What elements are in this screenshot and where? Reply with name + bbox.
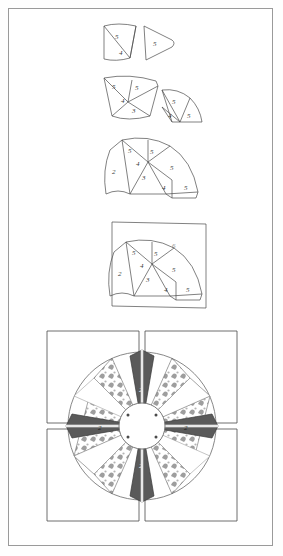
stage-5-completed-compass-block: 2 2 2 2 bbox=[44, 326, 240, 526]
piece-label-5-c: 5 bbox=[172, 98, 176, 106]
piece-label-5-right: 5 bbox=[153, 40, 157, 48]
piece-label-4-e: 4 bbox=[140, 262, 144, 270]
piece-label-4-c: 4 bbox=[136, 160, 140, 168]
piece-label-5-a: 5 bbox=[112, 83, 116, 91]
piece-label-5-f: 5 bbox=[150, 148, 154, 156]
piece-label-4-b: 4 bbox=[168, 112, 172, 120]
piece-label-5-e: 5 bbox=[128, 147, 132, 155]
stage-4-fan-on-background-square: 6 5 5 4 2 3 5 4 bbox=[96, 218, 218, 316]
piece-label-5-j: 5 bbox=[154, 250, 158, 258]
piece-label-3-a: 3 bbox=[131, 107, 136, 115]
piece-label-4-a: 4 bbox=[121, 97, 125, 105]
piece-label-5-d: 5 bbox=[187, 112, 191, 120]
center-circle bbox=[119, 403, 165, 449]
piece-label-5-g: 5 bbox=[170, 164, 174, 172]
piece-label-2-b: 2 bbox=[118, 270, 122, 278]
stage-1-two-small-wedge-units: 5 4 5 bbox=[96, 18, 188, 70]
piece-label-5: 5 bbox=[115, 33, 119, 41]
piece-label-5-k: 5 bbox=[172, 266, 176, 274]
piece-label-5-l: 5 bbox=[186, 286, 190, 294]
compass-label-2-east: 2 bbox=[184, 424, 188, 432]
compass-label-2-west: 2 bbox=[98, 424, 102, 432]
illustration-page: 5 4 5 5 5 4 3 bbox=[0, 0, 283, 556]
piece-label-2-a: 2 bbox=[112, 168, 116, 176]
piece-label-3-b: 3 bbox=[141, 174, 146, 182]
piece-label-5-h: 5 bbox=[184, 184, 188, 192]
piece-label-3-c: 3 bbox=[145, 276, 150, 284]
stage-3-full-quarter-fan: 5 5 4 2 3 5 4 5 bbox=[92, 132, 210, 216]
piece-label-4: 4 bbox=[119, 49, 123, 57]
piece-label-4-d: 4 bbox=[162, 184, 166, 192]
compass-label-2-north: 2 bbox=[139, 386, 143, 394]
stage-2-two-joined-wedge-groups: 5 5 4 3 5 4 5 bbox=[92, 72, 207, 138]
piece-label-5-b: 5 bbox=[135, 84, 139, 92]
piece-label-4-f: 4 bbox=[164, 286, 168, 294]
piece-label-5-i: 5 bbox=[132, 249, 136, 257]
compass-label-2-south: 2 bbox=[139, 462, 143, 470]
